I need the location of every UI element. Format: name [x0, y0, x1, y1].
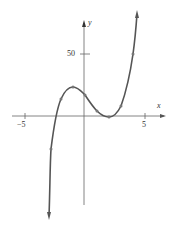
tick-label-neg5: −5	[17, 120, 26, 129]
chart-canvas	[0, 0, 171, 228]
curve-line	[49, 14, 137, 216]
curve-arrow-up-icon	[135, 10, 139, 18]
tick-label-50: 50	[67, 49, 75, 58]
y-axis-label: y	[88, 18, 92, 27]
tick-label-5: 5	[142, 120, 146, 129]
curve-arrow-down-icon	[47, 212, 51, 220]
x-axis-arrow-icon	[160, 114, 166, 118]
y-axis-arrow-icon	[82, 20, 86, 27]
x-axis-label: x	[157, 101, 161, 110]
